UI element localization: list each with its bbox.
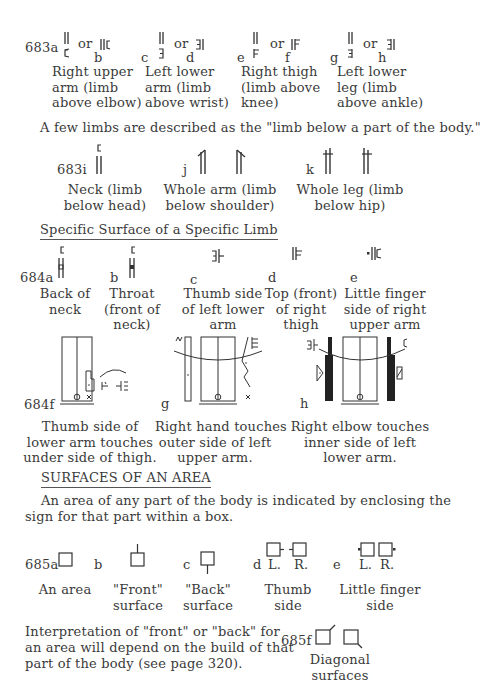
item-caption: "Front" surface — [105, 582, 171, 613]
item-caption: Thumb side of lower arm touches under si… — [20, 419, 160, 466]
left-label: L. — [359, 557, 372, 573]
thumb-side-boxes-icon — [266, 542, 310, 558]
item-label: d — [268, 270, 277, 286]
or-text: or — [270, 36, 284, 52]
item-label: b — [94, 557, 103, 573]
item-caption: Thumb side — [258, 582, 318, 613]
item-caption: Little finger side — [335, 582, 425, 613]
back-of-neck-sign-icon — [56, 244, 68, 280]
item-caption: Left lower arm (limb above wrist) — [145, 64, 229, 111]
intro-text: A few limbs are described as the "limb b… — [40, 120, 481, 136]
right-label: R. — [294, 557, 308, 573]
section-685-paragraph: An area of any part of the body is indic… — [25, 493, 420, 525]
right-label: R. — [380, 557, 394, 573]
item-label: b — [110, 270, 119, 286]
or-text: or — [363, 36, 377, 52]
limb-sign-icon — [344, 30, 356, 60]
item-caption: Left lower leg (limb above ankle) — [337, 64, 423, 111]
thumb-touches-thigh-diagram-icon — [58, 335, 138, 407]
left-label: L. — [268, 557, 281, 573]
item-caption: Throat (front of neck) — [100, 286, 164, 333]
item-label: e — [350, 270, 358, 286]
thumb-side-lower-arm-sign-icon — [210, 248, 228, 264]
little-finger-side-boxes-icon — [357, 542, 403, 558]
limb-sign-alt-icon — [290, 38, 304, 52]
hand-touches-arm-diagram-icon — [172, 335, 262, 407]
little-finger-side-sign-icon — [366, 246, 384, 262]
item-label: d — [253, 557, 262, 573]
front-surface-box-icon — [130, 543, 146, 569]
area-box-icon — [58, 552, 74, 568]
section-684-heading: Specific Surface of a Specific Limb — [40, 222, 278, 240]
item-caption: Back of neck — [30, 286, 100, 317]
item-caption: Neck (limb below head) — [60, 182, 150, 213]
item-caption: Thumb side of left lower arm — [178, 286, 268, 333]
whole-leg-sign-icon — [322, 146, 336, 176]
item-label: c — [183, 557, 190, 573]
item-label: k — [306, 162, 314, 178]
limb-sign-icon — [251, 30, 263, 60]
limb-sign-icon — [155, 30, 167, 60]
item-label: e — [333, 557, 341, 573]
or-text: or — [78, 36, 92, 52]
whole-leg-sign-alt-icon — [361, 146, 375, 176]
item-label: 685f — [281, 633, 311, 649]
item-caption: Whole leg (limb below hip) — [295, 182, 405, 213]
item-caption: Little finger side of right upper arm — [340, 286, 430, 333]
throat-sign-icon — [127, 244, 139, 280]
neck-sign-icon — [94, 142, 106, 176]
item-label: 684f — [24, 397, 54, 413]
limb-sign-icon — [62, 30, 74, 60]
elbow-touches-arm-diagram-icon — [305, 335, 410, 407]
whole-arm-sign-icon — [197, 148, 209, 176]
item-label: 685a — [25, 557, 58, 573]
limb-sign-alt-icon — [194, 38, 208, 52]
back-surface-box-icon — [200, 551, 216, 577]
item-label: 683a — [25, 40, 58, 56]
item-caption: Top (front) of right thigh — [262, 286, 340, 333]
item-caption: Diagonal surfaces — [305, 652, 375, 683]
top-of-thigh-sign-icon — [290, 246, 306, 262]
item-caption: Right elbow touches inner side of left l… — [290, 419, 430, 466]
item-label: j — [183, 162, 187, 178]
item-caption: Right upper arm (limb above elbow) — [52, 64, 142, 111]
item-label: 683i — [57, 162, 87, 178]
item-caption: Right thigh (limb above knee) — [241, 64, 320, 111]
whole-arm-sign-alt-icon — [234, 148, 248, 176]
diagonal-surface-boxes-icon — [315, 624, 367, 648]
item-caption: Whole arm (limb below shoulder) — [160, 182, 280, 213]
item-caption: Right hand touches outer side of left up… — [155, 419, 275, 466]
interpretation-note: Interpretation of "front" or "back" for … — [25, 624, 294, 672]
item-caption: "Back" surface — [175, 582, 241, 613]
item-caption: An area — [35, 582, 95, 598]
section-685-heading: SURFACES OF AN AREA — [41, 470, 211, 488]
item-label: 684a — [20, 270, 53, 286]
limb-sign-alt-icon — [385, 38, 399, 52]
item-label: g — [161, 396, 170, 412]
